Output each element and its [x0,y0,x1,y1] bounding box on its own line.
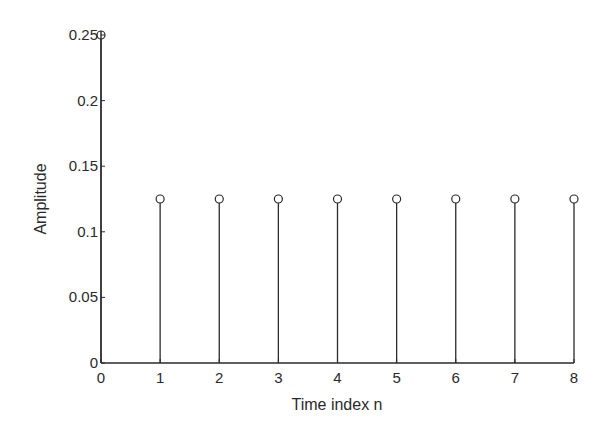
stem-marker [511,195,519,203]
y-axis-label: Amplitude [32,163,49,234]
x-tick-label: 2 [215,369,223,386]
y-tick-label: 0.05 [69,288,98,305]
stem-marker [274,195,282,203]
x-tick-label: 6 [452,369,460,386]
stem [570,195,578,363]
x-tick-label: 1 [156,369,164,386]
y-tick-label: 0.1 [77,223,98,240]
stem [511,195,519,363]
stem [215,195,223,363]
x-tick-label: 4 [333,369,341,386]
stem-plot: 00.050.10.150.20.25 012345678 Time index… [0,0,607,434]
x-tick-label: 0 [97,369,105,386]
stem-marker [334,195,342,203]
y-ticks: 00.050.10.150.20.25 [69,26,105,371]
stem [393,195,401,363]
x-axis-label: Time index n [292,396,383,413]
stem-marker [570,195,578,203]
x-tick-label: 3 [274,369,282,386]
y-tick-label: 0.2 [77,92,98,109]
y-tick-label: 0.25 [69,26,98,43]
stems [97,31,578,363]
x-tick-label: 5 [392,369,400,386]
stem [97,31,105,363]
stem-marker [393,195,401,203]
x-tick-label: 7 [511,369,519,386]
stem-marker [452,195,460,203]
x-tick-label: 8 [570,369,578,386]
stem [274,195,282,363]
stem [156,195,164,363]
stem-marker [156,195,164,203]
y-tick-label: 0.15 [69,157,98,174]
stem [452,195,460,363]
stem [334,195,342,363]
stem-marker [215,195,223,203]
